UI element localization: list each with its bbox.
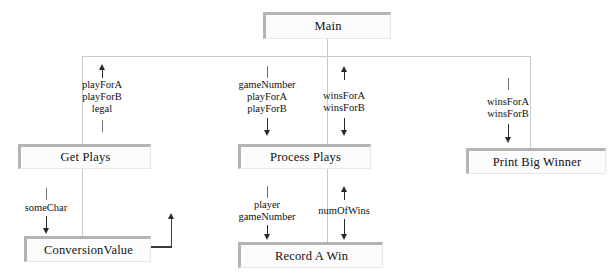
couple-stem-top xyxy=(508,78,509,90)
couple-stem-bottom xyxy=(102,120,103,132)
module-main[interactable]: Main xyxy=(263,12,391,39)
couple-label: legal xyxy=(52,103,152,115)
module-conversion-value[interactable]: ConversionValue xyxy=(24,236,151,262)
couple-labels: numOfWins xyxy=(304,205,384,217)
module-record-a-win-label: Record A Win xyxy=(275,249,348,264)
couple-stem-bottom xyxy=(267,225,268,234)
module-process-plays-label: Process Plays xyxy=(270,150,341,165)
couple-stem-top xyxy=(267,186,268,198)
return-path-vertical-segment xyxy=(171,219,173,247)
couple-label: winsForA xyxy=(304,90,384,102)
couple-stem-top xyxy=(46,188,47,200)
couple-labels: gameNumber playForA playForB xyxy=(217,79,317,115)
arrow-down-icon xyxy=(505,137,511,143)
arrow-down-icon xyxy=(341,130,347,136)
module-get-plays[interactable]: Get Plays xyxy=(18,144,151,169)
couple-stem-top xyxy=(344,72,345,80)
connector-main-drop xyxy=(327,38,328,57)
couple-label: playForA xyxy=(52,79,152,91)
arrow-down-icon xyxy=(264,130,270,136)
couple-label: winsForA xyxy=(468,96,548,108)
couple-stem-bottom xyxy=(46,216,47,228)
couple-stem-bottom xyxy=(508,124,509,137)
structure-chart-canvas: Main Get Plays Process Plays Print Big W… xyxy=(0,0,614,276)
module-main-label: Main xyxy=(314,19,341,34)
return-path-horizontal-segment xyxy=(150,246,172,248)
couple-label: playForB xyxy=(217,103,317,115)
module-print-big-winner[interactable]: Print Big Winner xyxy=(466,148,606,174)
couple-labels: winsForA winsForB xyxy=(304,90,384,114)
connector-horizontal-bus xyxy=(82,56,531,57)
couple-label: gameNumber xyxy=(217,79,317,91)
couple-labels: playForA playForB legal xyxy=(52,79,152,115)
module-record-a-win[interactable]: Record A Win xyxy=(238,242,383,268)
couple-stem-top xyxy=(267,66,268,78)
arrow-up-icon xyxy=(168,213,174,219)
couple-label: playForA xyxy=(217,91,317,103)
couple-stem-bottom xyxy=(344,219,345,234)
couple-label: winsForB xyxy=(304,102,384,114)
module-conversion-value-label: ConversionValue xyxy=(44,243,133,258)
couple-labels: someChar xyxy=(6,202,86,214)
arrow-down-icon xyxy=(341,234,347,240)
couple-stem-bottom xyxy=(344,118,345,130)
couple-label: gameNumber xyxy=(222,211,312,223)
couple-label: playForB xyxy=(52,91,152,103)
module-process-plays[interactable]: Process Plays xyxy=(238,144,371,169)
couple-stem-top xyxy=(102,70,103,78)
module-print-big-winner-label: Print Big Winner xyxy=(493,155,582,170)
couple-stem-bottom xyxy=(267,118,268,130)
couple-label: someChar xyxy=(6,202,86,214)
couple-labels: player gameNumber xyxy=(222,199,312,223)
return-path-conversion-value xyxy=(150,213,180,248)
couple-label: numOfWins xyxy=(304,205,384,217)
couple-label: player xyxy=(222,199,312,211)
couple-label: winsForB xyxy=(468,108,548,120)
couple-labels: winsForA winsForB xyxy=(468,96,548,120)
arrow-down-icon xyxy=(43,228,49,234)
couple-stem-top xyxy=(344,192,345,200)
arrow-down-icon xyxy=(264,234,270,240)
module-get-plays-label: Get Plays xyxy=(60,150,110,165)
